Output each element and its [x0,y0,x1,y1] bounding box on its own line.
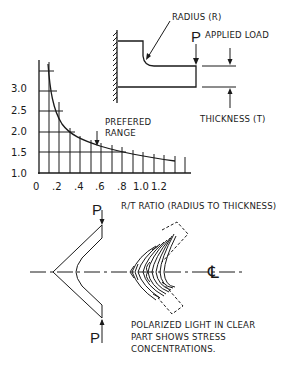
bottom-load-arrow-up-icon [100,319,105,325]
caption-line-2: PART SHOWS STRESS [131,331,226,342]
top-load-symbol-p: P [92,201,102,218]
x-tick-0-2: .2 [52,181,62,192]
fringe-lower-arm-outline [158,282,183,314]
top-load-arrow-down-icon [100,219,105,225]
photoelastic-fringe-pattern [130,222,188,314]
fringe-upper-arm-outline [162,222,188,262]
load-arrow-down-icon [193,58,199,65]
thickness-label: THICKNESS (T) [199,113,266,124]
x-tick-0-8: .8 [117,181,127,192]
applied-load-label: APPLIED LOAD [205,29,269,40]
thickness-arrow-up-icon [228,88,233,94]
x-tick-1-2: 1.2 [151,181,167,192]
caption-line-3: CONCENTRATIONS. [131,343,216,354]
x-tick-1-0: 1.0 [133,181,149,192]
y-tick-2-5: 2.5 [11,105,27,116]
caption-line-1: POLARIZED LIGHT IN CLEAR [131,319,255,330]
bottom-load-symbol-p: P [90,329,100,346]
part-outline [118,41,196,87]
x-tick-0: 0 [33,181,39,192]
y-tick-1-5: 1.5 [11,147,27,158]
x-tick-0-6: .6 [95,181,105,192]
preferred-range-label: PREFERED [105,116,152,127]
cantilever-figure: RADIUS (R) P APPLIED LOAD THICKNESS (T) [113,11,269,124]
stress-chart: 3.0 2.5 2.0 1.5 1.0 0 .2 .4 .6 .8 1.0 1.… [11,60,276,211]
bent-bracket-figure: P P [30,201,255,354]
thickness-arrow-down-icon [228,59,233,65]
radius-leader [148,21,170,57]
diagram-canvas: RADIUS (R) P APPLIED LOAD THICKNESS (T) [0,0,304,367]
radius-label: RADIUS (R) [172,11,222,22]
y-tick-1-0: 1.0 [11,168,27,179]
centerline-symbol-icon: ℄ [207,262,219,282]
x-axis-title: R/T RATIO (RADIUS TO THICKNESS) [121,200,276,211]
y-tick-3-0: 3.0 [11,83,27,94]
y-tick-2-0: 2.0 [11,126,27,137]
x-tick-0-4: .4 [74,181,84,192]
preferred-range-label-2: RANGE [105,127,136,138]
load-symbol-p: P [191,28,201,45]
